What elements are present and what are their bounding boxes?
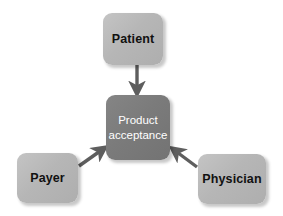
diagram-canvas: Patient Product acceptance Payer Physici… (0, 0, 283, 216)
node-product-acceptance-label: Product acceptance (106, 113, 171, 142)
node-product-acceptance[interactable]: Product acceptance (106, 95, 170, 160)
node-patient-label: Patient (109, 32, 157, 46)
arrow-payer-to-product (79, 152, 100, 167)
node-payer[interactable]: Payer (17, 153, 78, 203)
node-physician[interactable]: Physician (198, 154, 266, 204)
node-payer-label: Payer (27, 171, 68, 185)
node-physician-label: Physician (199, 172, 264, 186)
arrow-physician-to-product (178, 153, 198, 168)
node-patient[interactable]: Patient (103, 13, 163, 65)
